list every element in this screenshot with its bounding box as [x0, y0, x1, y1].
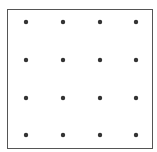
grid-dot: [98, 96, 102, 100]
grid-dot: [134, 133, 138, 137]
dot-grid: [0, 0, 157, 152]
grid-dot: [61, 96, 65, 100]
grid-dot: [134, 20, 138, 24]
grid-dot: [61, 133, 65, 137]
grid-dot: [24, 20, 28, 24]
grid-dot: [24, 133, 28, 137]
grid-dot: [134, 58, 138, 62]
grid-dot: [61, 20, 65, 24]
grid-dot: [24, 58, 28, 62]
grid-dot: [134, 96, 138, 100]
grid-dot: [24, 96, 28, 100]
grid-dot: [98, 58, 102, 62]
grid-dot: [61, 58, 65, 62]
grid-dot: [98, 20, 102, 24]
grid-dot: [98, 133, 102, 137]
